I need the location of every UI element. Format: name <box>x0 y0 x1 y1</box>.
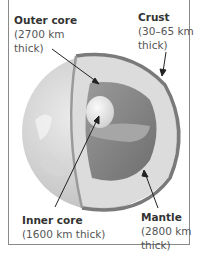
outer-core-title: Outer core <box>14 13 77 27</box>
crust-detail-1: (30–65 km <box>138 24 194 38</box>
crust-arrow <box>163 52 166 72</box>
label-mantle: Mantle (2800 km thick) <box>141 210 191 252</box>
label-inner-core: Inner core (1600 km thick) <box>22 213 105 241</box>
label-crust: Crust (30–65 km thick) <box>138 10 194 52</box>
outer-core-detail-2: thick) <box>14 41 77 55</box>
crust-title: Crust <box>138 10 194 24</box>
crust-detail-2: thick) <box>138 38 194 52</box>
inner-core-title: Inner core <box>22 213 105 227</box>
mantle-detail-1: (2800 km <box>141 224 191 238</box>
mantle-detail-2: thick) <box>141 238 191 252</box>
mantle-title: Mantle <box>141 210 191 224</box>
outer-core-detail-1: (2700 km <box>14 27 77 41</box>
label-outer-core: Outer core (2700 km thick) <box>14 13 77 55</box>
inner-core-detail-1: (1600 km thick) <box>22 227 105 241</box>
inner-core-layer <box>86 96 114 128</box>
